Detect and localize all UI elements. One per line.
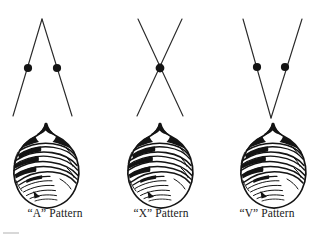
v-pattern-label: “V” Pattern: [212, 208, 322, 220]
v-pattern-diagram: [243, 19, 302, 118]
v-specimen-drawing: [241, 124, 306, 209]
a-right-dot: [53, 64, 61, 72]
x-pattern-label: “X” Pattern: [106, 208, 216, 220]
figure-root: “A” Pattern “X” Pattern “V” Pattern: [0, 0, 322, 239]
a-pattern-diagram: [13, 19, 72, 116]
v-right-dot: [281, 63, 289, 71]
a-specimen-drawing: [14, 124, 79, 209]
x-pattern-diagram: [137, 19, 183, 116]
a-pattern-label: “A” Pattern: [0, 208, 110, 220]
panel-a-pattern: [13, 19, 79, 208]
x-specimen-drawing: [128, 124, 193, 209]
a-left-dot: [24, 64, 32, 72]
x-center-dot: [156, 64, 165, 73]
panel-x-pattern: [128, 19, 193, 208]
panel-v-pattern: [241, 19, 306, 208]
v-left-dot: [253, 63, 261, 71]
scan-edge-artifact: [3, 232, 19, 234]
figure-diagram: [0, 0, 322, 239]
